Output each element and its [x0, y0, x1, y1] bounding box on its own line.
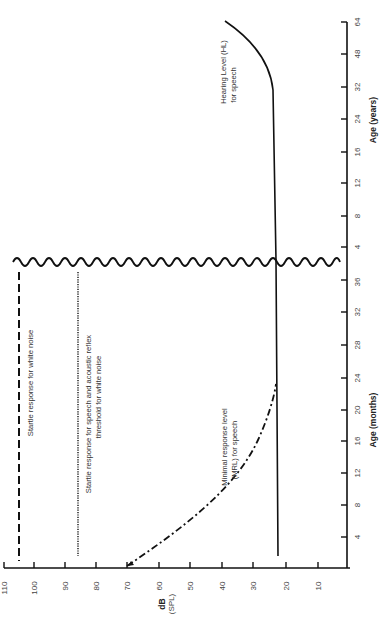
year-tick-label: 24 [353, 114, 362, 123]
label-startle-speech-line2: threshold for white noise [94, 356, 103, 438]
chart: 110 100 90 80 70 60 50 40 30 20 10 dB (S… [0, 0, 382, 619]
year-tick-label: 4 [353, 244, 362, 249]
db-tick-label: 40 [218, 581, 227, 590]
month-tick-label: 28 [353, 340, 362, 349]
db-tick-labels: 110 100 90 80 70 60 50 40 30 20 10 [0, 581, 323, 595]
month-tick-label: 20 [353, 405, 362, 414]
db-tick-label: 10 [314, 581, 323, 590]
db-tick-label: 110 [0, 581, 9, 594]
month-tick-label: 4 [353, 534, 362, 539]
month-tick-label: 36 [353, 277, 362, 286]
db-axis-subtitle: (SPL) [167, 593, 176, 614]
db-tick-label: 50 [186, 581, 195, 590]
label-startle-speech-line1: Startle response for speech and acoustic… [84, 335, 93, 493]
db-tick-label: 30 [249, 581, 258, 590]
year-tick-label: 64 [353, 17, 362, 26]
db-tick-label: 80 [92, 581, 101, 590]
db-tick-label: 20 [282, 581, 291, 590]
db-tick-label: 90 [61, 581, 70, 590]
month-tick-labels: 36 32 28 24 20 16 12 8 4 [353, 277, 362, 539]
db-tick-label: 70 [123, 581, 132, 590]
db-tick-label: 100 [30, 581, 39, 595]
month-tick-label: 16 [353, 436, 362, 445]
mrl-arrow-icon [128, 561, 134, 566]
axes [4, 22, 350, 568]
months-axis-title: Age (months) [368, 392, 378, 447]
db-axis-title: dB [157, 598, 167, 609]
month-tick-label: 8 [353, 502, 362, 507]
age-ticks [341, 22, 347, 537]
month-tick-label: 12 [353, 468, 362, 477]
month-tick-label: 32 [353, 307, 362, 316]
label-startle-white-noise: Startle response for white noise [26, 330, 35, 436]
db-ticks [4, 562, 318, 568]
label-hl-line2: for speech [229, 67, 238, 102]
year-tick-label: 16 [353, 147, 362, 156]
year-tick-label: 32 [353, 82, 362, 91]
label-hl-line1: Hearing Level (HL) [219, 40, 228, 104]
year-tick-label: 12 [353, 178, 362, 187]
db-tick-label: 60 [155, 581, 164, 590]
year-tick-labels: 64 48 32 24 16 12 8 4 [353, 17, 362, 249]
years-axis-title: Age (years) [368, 97, 378, 143]
axis-break-wave [13, 258, 340, 266]
label-mrl-line1: Minimal response level [220, 408, 229, 486]
year-tick-label: 8 [353, 213, 362, 218]
month-tick-label: 24 [353, 373, 362, 382]
series-mrl [127, 384, 276, 566]
year-tick-label: 48 [353, 49, 362, 58]
label-mrl-line2: (MRL) for speech [230, 421, 239, 480]
